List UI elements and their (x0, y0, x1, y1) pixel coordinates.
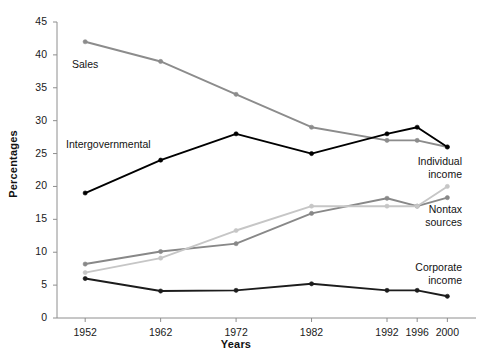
series-label-corporate-income-line1: Corporate (374, 261, 462, 274)
series-label-individual-income-line1: Individual (376, 155, 462, 168)
series-label-nontax-sources-line2: sources (380, 216, 462, 229)
y-tick-label: 0 (23, 311, 47, 323)
x-tick-label: 1962 (138, 326, 184, 338)
y-tick-label: 25 (23, 147, 47, 159)
series-label-corporate-income-line2: income (374, 274, 462, 287)
series-label-nontax-sources-line1: Nontax (380, 203, 462, 216)
x-tick-label: 2000 (424, 326, 470, 338)
y-tick-label: 10 (23, 245, 47, 257)
line-chart: Percentages Years 051015202530354045 195… (0, 0, 492, 358)
y-tick-label: 15 (23, 212, 47, 224)
x-axis-title: Years (196, 338, 276, 350)
series-label-sales: Sales (72, 58, 98, 71)
x-tick-label: 1982 (289, 326, 335, 338)
y-tick-label: 5 (23, 278, 47, 290)
y-tick-label: 30 (23, 114, 47, 126)
x-tick-label: 1952 (62, 326, 108, 338)
y-tick-label: 20 (23, 179, 47, 191)
y-axis-title: Percentages (7, 124, 19, 204)
x-tick-label: 1972 (213, 326, 259, 338)
y-tick-label: 35 (23, 81, 47, 93)
y-tick-label: 45 (23, 15, 47, 27)
y-tick-label: 40 (23, 48, 47, 60)
series-label-individual-income-line2: income (376, 168, 462, 181)
series-label-intergovernmental: Intergovernmental (66, 138, 151, 151)
